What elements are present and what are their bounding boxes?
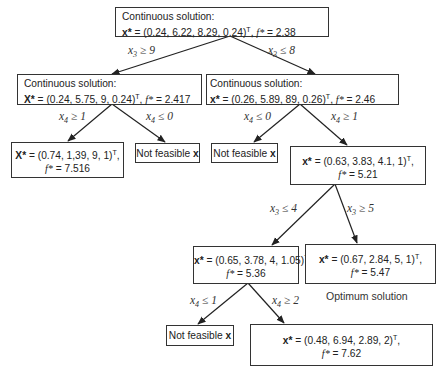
node-solution: x* = (0.24, 6.22, 8.29, 0.24)T, f* = 2.3… — [122, 23, 328, 39]
edge-label-d-a: x3 ≤ 4 — [270, 202, 297, 217]
node-objective: f* = 5.36 — [194, 267, 298, 280]
node-solution: X* = (0.74, 1,39, 9, 1)T, — [12, 146, 123, 162]
node-solution: x* = (0.67, 2.84, 5, 1)T, — [306, 250, 435, 266]
node-solution: x* = (0.48, 6.94, 2.89, 2)T, — [251, 331, 432, 347]
edge-label-3a-a: x4 ≤ 1 — [190, 294, 217, 309]
optimum-solution-label: Optimum solution — [326, 290, 408, 302]
node-heading: Continuous solution: — [24, 77, 201, 90]
node-objective: f* = 5.47 — [306, 266, 435, 279]
node-heading: Continuous solution: — [122, 10, 328, 23]
node-solution: X* = (0.24, 5.75, 9, 0.24)T, f* = 2.417 — [24, 90, 201, 106]
edge-label-right-d: x4 ≥ 1 — [331, 110, 358, 125]
node-level2-b-not-feasible: Not feasible x — [135, 143, 200, 163]
edge-label-left-b: x4 ≤ 0 — [146, 110, 173, 125]
edge-label-3a-b: x4 ≥ 2 — [272, 294, 299, 309]
node-objective: f* = 5.21 — [291, 168, 425, 181]
node-level2-c-not-feasible: Not feasible x — [211, 143, 278, 163]
node-solution: x* = (0.65, 3.78, 4, 1.05)T, — [194, 251, 298, 267]
node-root: Continuous solution: x* = (0.24, 6.22, 8… — [115, 7, 329, 37]
edge-label-right-c: x4 ≤ 0 — [244, 110, 271, 125]
edge-label-root-right: x3 ≤ 8 — [268, 44, 295, 59]
node-level3-b-optimum: x* = (0.67, 2.84, 5, 1)T, f* = 5.47 — [305, 244, 436, 284]
edge-label-left-a: x4 ≥ 1 — [59, 110, 86, 125]
tree-edges — [0, 0, 436, 378]
node-objective: f* = 7.62 — [251, 347, 432, 360]
node-solution: x* = (0.26, 5.89, 89, 0.26)T, f* = 2.46 — [210, 90, 398, 106]
node-level2-d: x* = (0.63, 3.83, 4.1, 1)T, f* = 5.21 — [290, 146, 426, 185]
node-level4-a-not-feasible: Not feasible x — [166, 325, 234, 346]
edge-label-root-left: x3 ≥ 9 — [128, 44, 155, 59]
node-heading: Continuous solution: — [210, 77, 398, 90]
edge-label-d-b: x3 ≥ 5 — [347, 202, 374, 217]
node-level1-left: Continuous solution: X* = (0.24, 5.75, 9… — [17, 74, 202, 105]
node-level4-b: x* = (0.48, 6.94, 2.89, 2)T, f* = 7.62 — [250, 324, 433, 366]
node-level2-a: X* = (0.74, 1,39, 9, 1)T, f* = 7.516 — [11, 142, 124, 178]
node-level1-right: Continuous solution: x* = (0.26, 5.89, 8… — [206, 74, 399, 105]
node-objective: f* = 7.516 — [12, 162, 123, 175]
node-level3-a: x* = (0.65, 3.78, 4, 1.05)T, f* = 5.36 — [193, 246, 299, 284]
node-solution: x* = (0.63, 3.83, 4.1, 1)T, — [291, 152, 425, 168]
